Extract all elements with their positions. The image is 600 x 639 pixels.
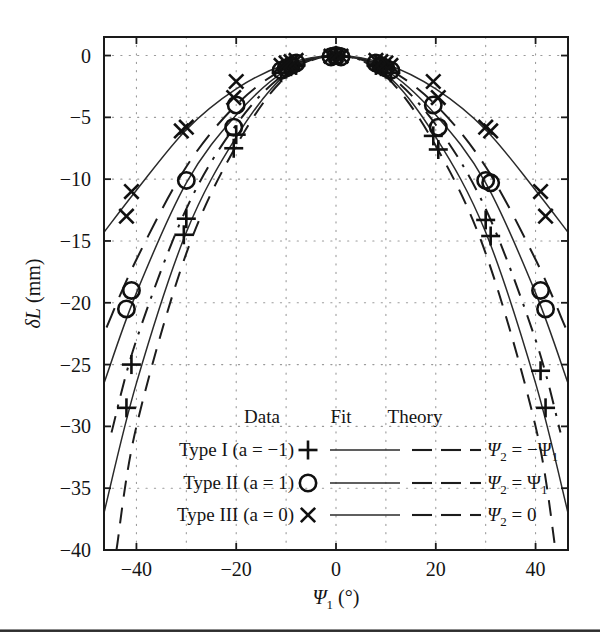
ytick-label: 0 — [81, 45, 91, 67]
legend-label-0: Type I (a = −1) — [179, 439, 294, 461]
y-axis-label: δL (mm) — [22, 259, 45, 329]
xtick-label: 40 — [526, 558, 546, 580]
xtick-label: 20 — [426, 558, 446, 580]
ytick-label: −10 — [60, 168, 91, 190]
legend-header-fit: Fit — [330, 406, 352, 427]
data-point-circle — [118, 301, 134, 317]
figure-container: 0−5−10−15−20−25−30−35−40−40−2002040 Data… — [0, 0, 600, 639]
ytick-label: −40 — [60, 539, 91, 561]
legend-theory-label-1: Ψ2 = Ψ1 — [487, 472, 548, 497]
legend: DataFitTheoryType I (a = −1) Ψ2 = −Ψ1Typ… — [177, 406, 558, 529]
x-axis-label: Ψ1 (°) — [313, 586, 360, 612]
ytick-label: −25 — [60, 354, 91, 376]
xtick-label: 0 — [331, 558, 341, 580]
ytick-label: −30 — [60, 415, 91, 437]
ytick-label: −15 — [60, 230, 91, 252]
xtick-label: −40 — [121, 558, 152, 580]
legend-theory-label-2: Ψ2 = 0 — [487, 504, 537, 529]
ytick-label: −35 — [60, 477, 91, 499]
ytick-label: −20 — [60, 292, 91, 314]
ytick-label: −5 — [70, 106, 91, 128]
xtick-label: −20 — [221, 558, 252, 580]
page-bottom-rule — [0, 629, 600, 632]
delta-l-chart: 0−5−10−15−20−25−30−35−40−40−2002040 Data… — [0, 0, 600, 639]
legend-label-2: Type III (a = 0) — [177, 504, 294, 526]
data-point-circle — [300, 475, 316, 491]
legend-label-1: Type II (a = 1) — [183, 472, 294, 494]
legend-header-data: Data — [244, 406, 280, 427]
data-point-circle — [537, 301, 553, 317]
legend-theory-label-0: Ψ2 = −Ψ1 — [487, 439, 558, 464]
legend-header-theory: Theory — [388, 406, 443, 427]
